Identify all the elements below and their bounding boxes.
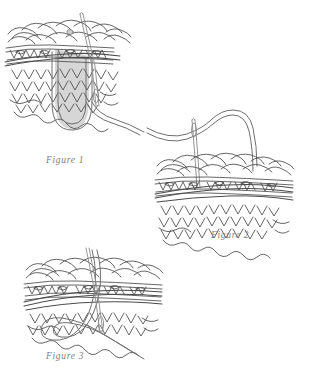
figure-1-illustration bbox=[0, 4, 150, 164]
yarn-strand bbox=[147, 110, 257, 171]
figure-3-caption: Figure 3 bbox=[46, 351, 84, 361]
figure-sheet: Figure 1 bbox=[0, 0, 317, 368]
yarn-tail bbox=[86, 102, 144, 135]
fabric-swatch bbox=[155, 153, 294, 260]
figure-1-caption: Figure 1 bbox=[46, 155, 84, 165]
figure-2-artwork bbox=[143, 100, 317, 248]
figure-2-illustration bbox=[143, 100, 317, 248]
stitch-knot-detail bbox=[67, 30, 73, 35]
figure-3-artwork bbox=[18, 248, 208, 368]
figure-1-artwork bbox=[0, 4, 150, 164]
figure-2-caption: Figure 2 bbox=[211, 230, 249, 240]
figure-3-illustration bbox=[18, 248, 208, 368]
